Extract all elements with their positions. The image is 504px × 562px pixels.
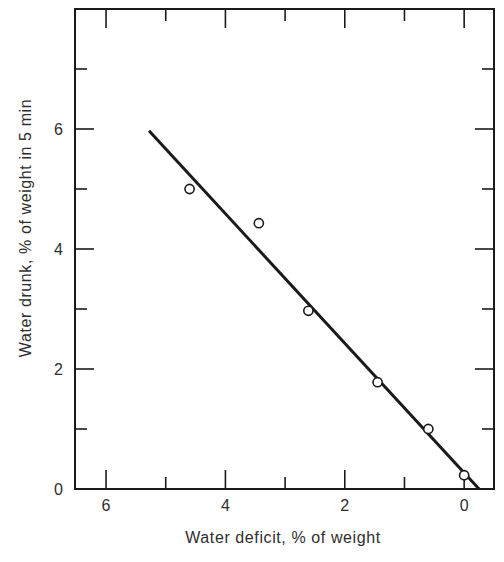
y-tick-label: 4 <box>54 241 63 258</box>
axis-ticks <box>75 9 494 489</box>
data-point-marker <box>185 184 194 193</box>
regression-line <box>149 131 479 489</box>
data-point-marker <box>460 471 469 480</box>
x-tick-label: 6 <box>102 497 111 514</box>
y-axis-label: Water drunk, % of weight in 5 min <box>17 99 34 357</box>
data-points <box>185 184 469 479</box>
chart: 64200246 Water deficit, % of weight Wate… <box>0 0 504 562</box>
data-point-marker <box>304 306 313 315</box>
y-tick-label: 6 <box>54 121 63 138</box>
x-tick-label: 2 <box>340 497 349 514</box>
chart-svg: 64200246 Water deficit, % of weight Wate… <box>0 0 504 562</box>
x-axis-label: Water deficit, % of weight <box>185 529 381 546</box>
tick-labels: 64200246 <box>54 121 469 514</box>
y-tick-label: 0 <box>54 481 63 498</box>
x-tick-label: 4 <box>221 497 230 514</box>
y-tick-label: 2 <box>54 361 63 378</box>
plot-frame <box>75 9 494 489</box>
x-tick-label: 0 <box>460 497 469 514</box>
data-point-marker <box>373 378 382 387</box>
data-point-marker <box>254 219 263 228</box>
data-point-marker <box>424 424 433 433</box>
fit-line <box>149 131 479 489</box>
